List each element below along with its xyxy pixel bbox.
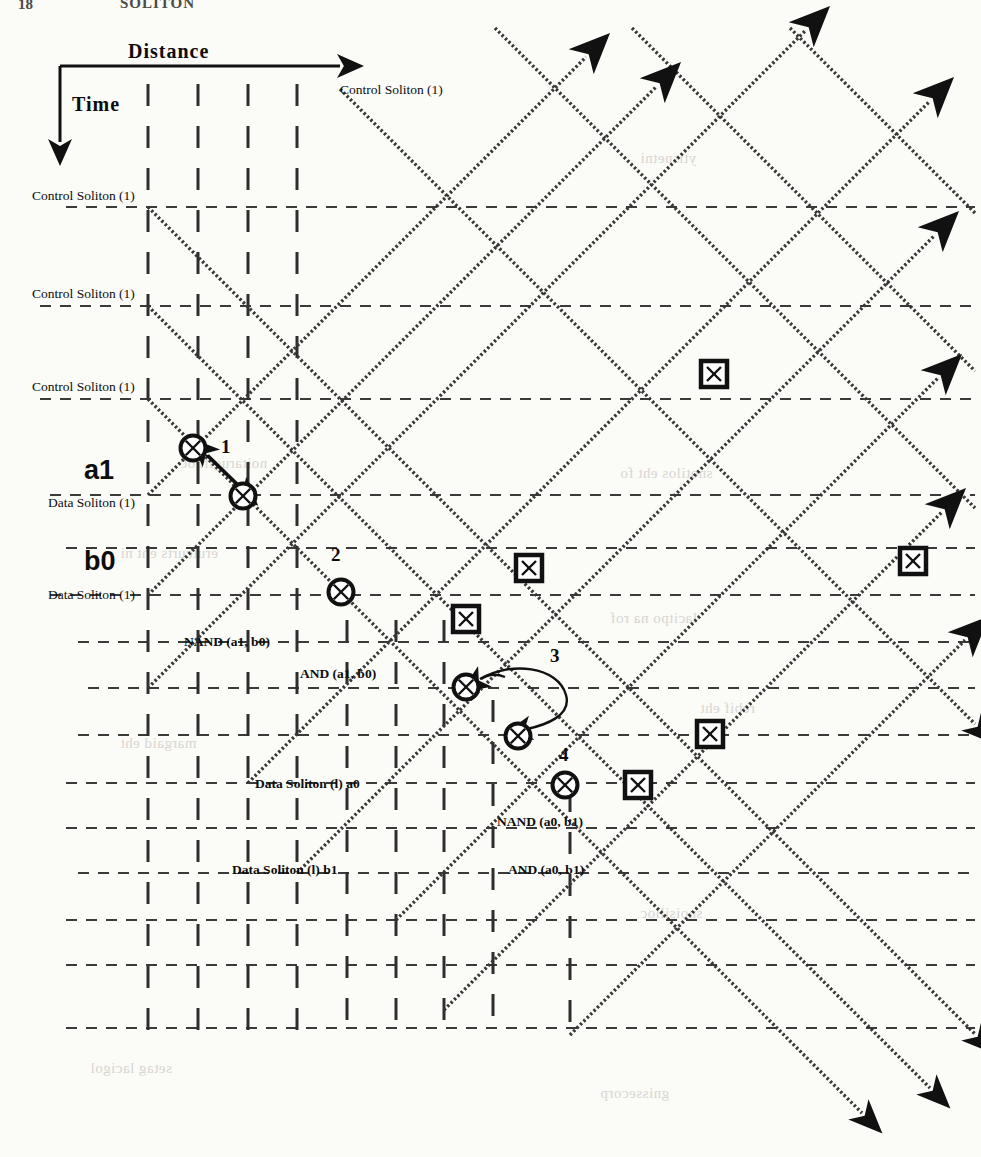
box-x-marker (697, 721, 723, 747)
circle-x-marker (329, 580, 354, 605)
circle-x-marker (553, 773, 578, 798)
collision-number-2: 2 (331, 544, 341, 566)
circle-x-marker (231, 484, 256, 509)
annotation-nand-a0-b1: NAND (a0, b1) (497, 814, 583, 830)
collision-number-1: 1 (221, 436, 231, 458)
circle-x-marker (454, 675, 479, 700)
circle-x-marker (181, 436, 206, 461)
annotation-control-soliton-2: Control Soliton (1) (32, 286, 135, 302)
annotation-and-a1-b0: AND (a1, b0) (300, 666, 376, 682)
label-b0: b0 (84, 546, 116, 577)
annotation-and-a0-b1: AND (a0, b1) (508, 862, 584, 878)
box-x-marker (453, 606, 479, 632)
box-x-marker (900, 548, 926, 574)
axis-label-distance: Distance (128, 40, 209, 63)
box-x-marker (625, 772, 651, 798)
collision-number-3: 3 (550, 645, 560, 667)
box-x-marker (516, 555, 542, 581)
collision-number-4: 4 (559, 744, 569, 766)
annotation-data-soliton-b1: Data Soliton (l) b1 (232, 862, 337, 878)
diagram-canvas (0, 0, 981, 1157)
label-a1: a1 (84, 455, 114, 486)
circle-x-marker (506, 724, 531, 749)
annotation-control-soliton-1: Control Soliton (1) (32, 188, 135, 204)
annotation-nand-a1-b0: NAND (a1, b0) (184, 634, 270, 650)
figure-page: 18 SOLITON ytisnetni noitarugifnoc snoti… (0, 0, 981, 1157)
annotation-data-soliton-b0: Data Soliton (1) (48, 587, 135, 603)
control-soliton-tracks-down (148, 28, 975, 1113)
data-soliton-tracks-up (148, 30, 965, 1035)
box-x-marker (701, 361, 727, 387)
grid-vertical-lines (148, 84, 570, 1035)
annotation-data-soliton-a0: Data Soliton (l) a0 (255, 776, 360, 792)
annotation-control-soliton-top: Control Soliton (1) (340, 82, 443, 98)
circle-collision-markers (181, 436, 578, 798)
annotation-data-soliton-a1: Data Soliton (1) (48, 495, 135, 511)
annotation-control-soliton-3: Control Soliton (1) (32, 379, 135, 395)
axis-label-time: Time (72, 93, 120, 116)
